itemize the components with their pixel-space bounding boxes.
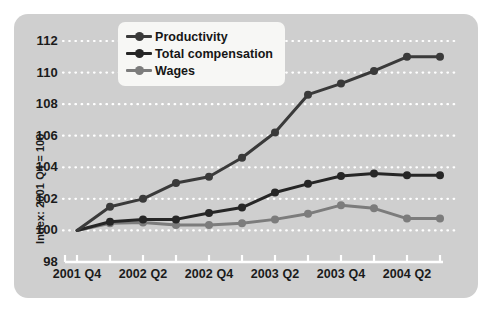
legend-label: Wages — [155, 64, 195, 78]
legend-marker-icon — [126, 64, 152, 77]
y-tick-label: 106 — [24, 128, 58, 143]
y-tick-label: 108 — [24, 96, 58, 111]
chart-legend: Productivity Total compensation Wages — [118, 22, 285, 86]
legend-item: Productivity — [126, 28, 273, 45]
legend-marker-icon — [126, 30, 152, 43]
y-tick-label: 112 — [24, 33, 58, 48]
x-tick-label: 2004 Q2 — [368, 267, 446, 281]
legend-item: Wages — [126, 62, 273, 79]
y-tick-label: 100 — [24, 222, 58, 237]
series-wages — [77, 201, 444, 230]
legend-item: Total compensation — [126, 45, 273, 62]
y-tick-label: 110 — [24, 65, 58, 80]
x-axis-line — [65, 255, 443, 262]
chart-figure: Index: 2001 Q4 = 100 1121101081061041021… — [0, 0, 492, 312]
legend-label: Productivity — [155, 30, 228, 44]
y-tick-label: 104 — [24, 159, 58, 174]
y-tick-label: 102 — [24, 191, 58, 206]
legend-marker-icon — [126, 47, 152, 60]
legend-label: Total compensation — [155, 47, 273, 61]
